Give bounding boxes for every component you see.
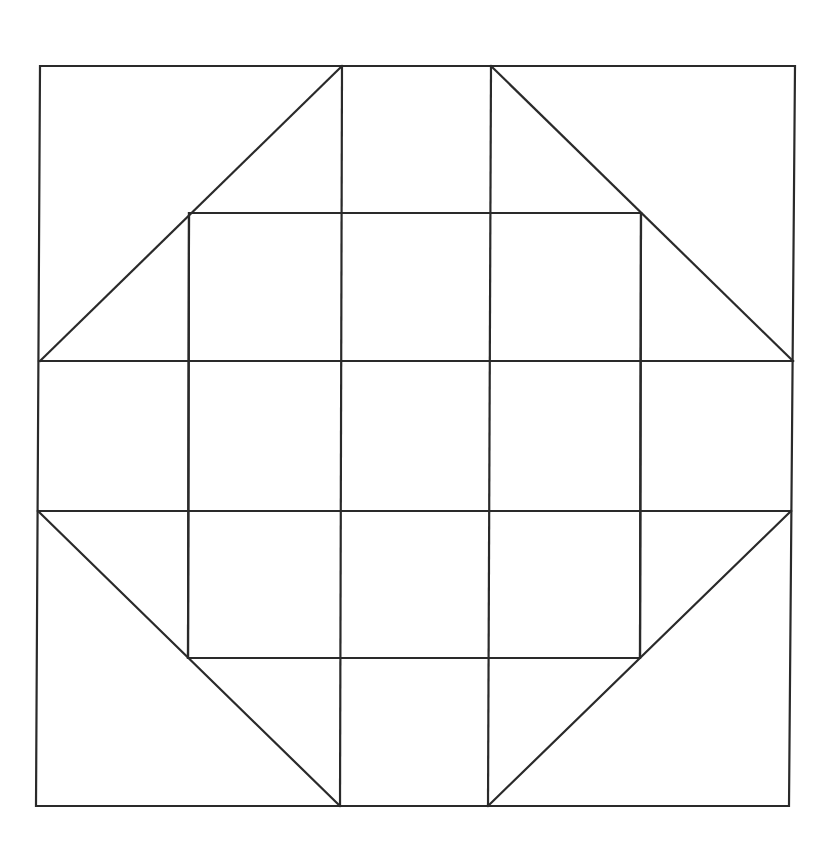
vertical-line-0 bbox=[340, 66, 342, 806]
vertical-line-2 bbox=[188, 213, 189, 658]
outer-square bbox=[36, 66, 795, 806]
horizontal-lines bbox=[38, 361, 793, 511]
vertical-lines bbox=[188, 66, 641, 806]
inner-square bbox=[188, 213, 641, 658]
diagonal-lines bbox=[38, 66, 793, 806]
vertical-line-1 bbox=[488, 66, 491, 806]
inner-square-outline bbox=[188, 213, 641, 658]
vertical-line-3 bbox=[640, 213, 641, 658]
quilt-block-diagram bbox=[0, 0, 826, 847]
outer-square-outline bbox=[36, 66, 795, 806]
